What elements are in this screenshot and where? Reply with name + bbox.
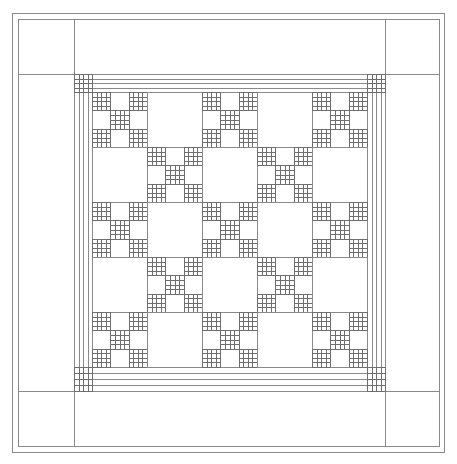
plain-block	[203, 258, 258, 313]
quilt-diagram	[0, 0, 457, 464]
plain-block	[93, 258, 148, 313]
plain-block	[93, 148, 148, 203]
plain-block	[148, 203, 203, 258]
plain-block	[148, 93, 203, 148]
quilt-pattern-drawing	[0, 0, 457, 464]
plain-block	[258, 313, 313, 368]
plain-block	[258, 93, 313, 148]
plain-block	[258, 203, 313, 258]
plain-block	[313, 258, 368, 313]
center-block-field	[93, 93, 368, 368]
plain-block	[203, 148, 258, 203]
plain-block	[148, 313, 203, 368]
plain-block	[313, 148, 368, 203]
